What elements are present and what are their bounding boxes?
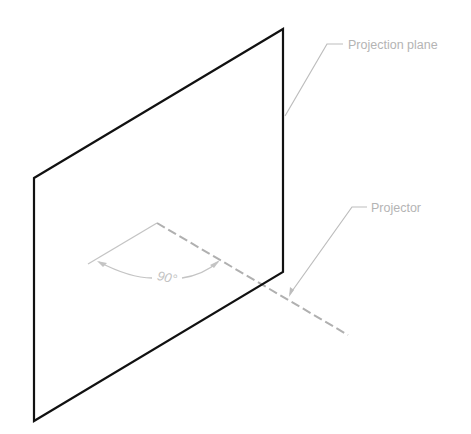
projector-label: Projector	[371, 201, 421, 215]
angle-dimension: 90°	[97, 260, 220, 287]
angle-arc	[99, 262, 152, 278]
projector-callout: Projector	[289, 201, 421, 297]
projection-plane-callout: Projection plane	[285, 38, 438, 116]
projector-line	[157, 223, 348, 335]
projection-plane-label: Projection plane	[348, 38, 438, 52]
projector-leader	[290, 207, 367, 294]
arrowhead-left-icon	[97, 261, 107, 267]
angle-label: 90°	[156, 268, 178, 287]
projection-plane-leader	[285, 44, 343, 116]
projection-diagram: 90° Projection plane Projector	[0, 0, 471, 434]
angle-reference-line	[88, 223, 157, 264]
